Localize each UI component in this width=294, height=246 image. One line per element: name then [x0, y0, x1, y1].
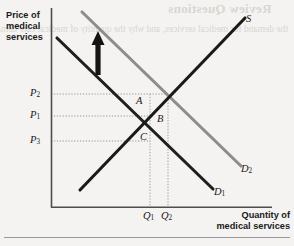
dotted-guides [51, 94, 168, 207]
point-label-b: B [157, 113, 163, 124]
point-label-a: A [136, 95, 142, 106]
chart-axes [51, 8, 272, 208]
price-tick-p1: P1 [30, 109, 40, 121]
curve-label-s: S [246, 13, 251, 24]
point-label-c: C [140, 131, 147, 142]
demand-curve-d1 [57, 38, 213, 189]
quantity-tick-q1: Q1 [143, 210, 154, 222]
curve-label-d1: D1 [214, 186, 225, 198]
x-axis-label: Quantity of medical services [186, 210, 290, 232]
page-horizontal-rule [4, 237, 290, 238]
curve-label-d2: D2 [241, 163, 252, 175]
demand-shift-arrow-icon [92, 31, 105, 75]
price-tick-p2: P2 [30, 87, 40, 99]
demand-curve-d2 [82, 12, 241, 166]
price-tick-p3: P3 [30, 134, 40, 146]
quantity-tick-q2: Q2 [161, 210, 172, 222]
y-axis-label: Price of medical services [6, 10, 43, 44]
supply-curve-s [80, 18, 245, 190]
